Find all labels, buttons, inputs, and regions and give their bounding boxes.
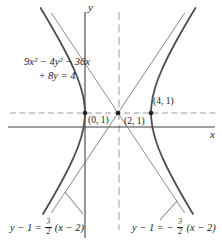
right-asymptote-equation-label: y − 1 = − 3 2 (x − 2) (132, 218, 216, 236)
hyperbola-equation-line1: 9x² − 4y² − 36x (12, 55, 102, 69)
right-vertex-point-dot (149, 111, 154, 116)
left-vertex-point-label: (0, 1) (88, 115, 109, 125)
hyperbola-figure: 9x² − 4y² − 36x + 8y = 4 (0, 1) (2, 1) (… (0, 0, 222, 243)
left-asymptote-fraction: 3 2 (45, 218, 52, 236)
left-asymptote-equation-prefix: y − 1 = (10, 222, 42, 233)
hyperbola-left-branch-curve (41, 8, 85, 214)
left-vertex-point-dot (83, 111, 88, 116)
left-asymptote-label-leader-line (65, 192, 83, 214)
right-vertex-point-label: (4, 1) (153, 96, 174, 106)
left-asymptote-fraction-denominator: 2 (45, 227, 52, 237)
right-asymptote-fraction-numerator: 3 (178, 218, 182, 227)
center-point-dot (116, 111, 121, 116)
hyperbola-right-branch-curve (151, 8, 195, 214)
hyperbola-equation-label: 9x² − 4y² − 36x + 8y = 4 (12, 55, 102, 83)
left-asymptote-equation-suffix: (x − 2) (55, 222, 84, 233)
right-asymptote-equation-suffix: (x − 2) (186, 222, 215, 233)
right-asymptote-fraction: 3 2 (177, 218, 184, 236)
center-point-label: (2, 1) (124, 116, 145, 126)
right-asymptote-equation-prefix: y − 1 = − (132, 222, 174, 233)
left-asymptote-fraction-numerator: 3 (46, 218, 50, 227)
figure-canvas (0, 0, 222, 243)
x-axis-label: x (210, 128, 215, 140)
left-asymptote-equation-label: y − 1 = 3 2 (x − 2) (10, 218, 84, 236)
hyperbola-equation-line2: + 8y = 4 (12, 69, 102, 83)
right-asymptote-fraction-denominator: 2 (177, 227, 184, 237)
y-axis-label: y (88, 1, 93, 13)
